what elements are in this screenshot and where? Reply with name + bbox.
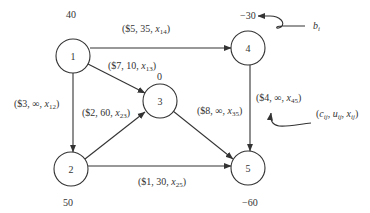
edge-label-2-3: ($2, 60, x23) <box>82 107 130 120</box>
edge-label-3-5: ($8, ∞, x35) <box>197 105 242 118</box>
supply-legend: bi <box>258 16 320 33</box>
arc-legend-label: (cij, uij, xij) <box>316 108 358 121</box>
edge-2-3 <box>85 112 145 159</box>
edge-label-2-5: ($1, 30, x25) <box>138 176 186 189</box>
supply-legend-label: bi <box>313 20 320 33</box>
node-supply-2: 50 <box>63 197 73 208</box>
node-label-5: 5 <box>246 163 251 174</box>
node-supply-5: −60 <box>242 197 258 208</box>
node-supply-1: 40 <box>66 9 76 20</box>
node-label-2: 2 <box>69 164 74 175</box>
edge-3-5 <box>173 111 233 159</box>
node-label-3: 3 <box>158 96 163 107</box>
edge-label-1-4: ($5, 35, x14) <box>122 23 170 36</box>
node-supply-3: 0 <box>157 71 162 82</box>
network-flow-diagram: 140250304−305−60 ($5, 35, x14)($7, 10, x… <box>0 0 370 213</box>
node-supply-4: −30 <box>240 10 256 21</box>
arc-legend: (cij, uij, xij) <box>271 108 359 126</box>
wavy-arrow-supply <box>258 16 305 28</box>
node-label-4: 4 <box>246 43 251 54</box>
curved-arrow-arc <box>271 113 311 126</box>
edge-label-1-3: ($7, 10, x13) <box>108 60 156 73</box>
node-label-1: 1 <box>71 51 76 62</box>
edge-label-4-5: ($4, ∞, x45) <box>256 92 301 105</box>
edge-label-1-2: ($3, ∞, x12) <box>14 98 59 111</box>
